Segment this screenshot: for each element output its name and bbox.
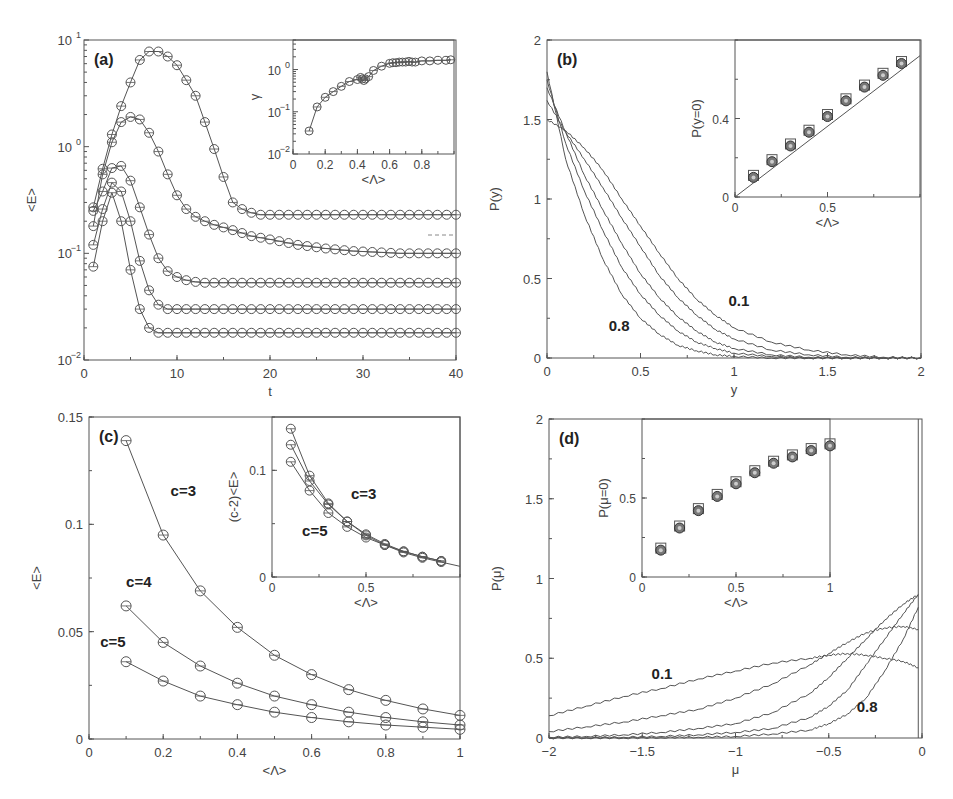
svg-text:−1: −1 xyxy=(71,243,81,253)
inset-d: 00.5100.5<Λ>P(μ=0) xyxy=(596,419,835,610)
data-curve xyxy=(291,445,441,561)
y-tick-label: 0.5 xyxy=(619,492,636,506)
data-curve xyxy=(549,595,918,739)
y-tick-label: 0 xyxy=(259,571,266,585)
data-curve xyxy=(547,72,921,359)
figure: 01020304010−210−1100101t<E>(a)00.20.40.6… xyxy=(0,0,953,799)
y-axis-label: P(y) xyxy=(487,187,502,211)
curve-annotation: c=5 xyxy=(100,633,125,650)
x-tick-label: −1 xyxy=(728,744,743,759)
svg-text:−2: −2 xyxy=(280,144,290,154)
y-axis-label: <E> xyxy=(29,566,44,590)
y-tick-label: 0 xyxy=(534,351,541,366)
y-tick-label: 0.15 xyxy=(58,410,83,425)
axes-frame xyxy=(549,419,922,738)
inset-a: 00.20.40.60.810−210−1100<Λ>γ xyxy=(247,40,455,187)
y-axis-label: (c-2)<E> xyxy=(226,472,241,523)
x-tick-label: 10 xyxy=(170,366,184,381)
x-tick-label: 40 xyxy=(449,366,463,381)
x-axis-label: t xyxy=(268,384,272,399)
y-tick-label: 2 xyxy=(536,412,543,427)
y-tick-label: 10 xyxy=(58,140,72,155)
panel-label: (c) xyxy=(99,428,119,445)
x-axis-label: <Λ> xyxy=(263,763,287,778)
y-tick-label: 0.4 xyxy=(712,113,729,127)
y-axis-label: P(μ) xyxy=(489,566,504,591)
x-tick-label: 0 xyxy=(918,744,925,759)
curve-annotation: 0.1 xyxy=(652,665,673,682)
x-axis-label: <Λ> xyxy=(354,595,378,610)
data-curve xyxy=(547,80,921,359)
y-tick-label: 0.1 xyxy=(65,517,83,532)
data-curve xyxy=(93,166,456,283)
data-curve xyxy=(547,88,921,359)
curve-annotation: 0.8 xyxy=(609,317,630,334)
x-tick-label: 0 xyxy=(85,745,92,760)
data-curve xyxy=(309,60,451,131)
curve-annotation: c=4 xyxy=(126,573,152,590)
data-curve xyxy=(549,626,918,732)
x-tick-label: 0 xyxy=(543,364,550,379)
panel-a: 01020304010−210−1100101t<E>(a)00.20.40.6… xyxy=(24,30,463,399)
curve-annotation: c=5 xyxy=(302,522,327,539)
y-tick-label: 1 xyxy=(536,572,543,587)
data-curve xyxy=(291,462,441,561)
x-tick-label: 0.4 xyxy=(349,158,366,172)
y-tick-label: 10 xyxy=(58,33,72,48)
x-tick-label: 0 xyxy=(290,158,297,172)
x-tick-label: 0.6 xyxy=(381,158,398,172)
x-axis-label: <Λ> xyxy=(362,172,386,187)
x-tick-label: 0.5 xyxy=(728,581,745,595)
inset-c: 00.500.1<Λ>(c-2)<E>c=3c=5 xyxy=(226,417,460,610)
inset-b: 00.500.4<Λ>P(y=0) xyxy=(689,40,920,230)
x-tick-label: 0 xyxy=(639,581,646,595)
x-axis-label: <Λ> xyxy=(724,595,748,610)
x-tick-label: 0 xyxy=(269,581,276,595)
x-axis-label: y xyxy=(731,382,738,397)
y-tick-label: 0.1 xyxy=(249,464,266,478)
x-tick-label: 1 xyxy=(827,581,834,595)
x-tick-label: 0.2 xyxy=(317,158,334,172)
y-tick-label: 1.5 xyxy=(523,113,541,128)
x-axis-label: <Λ> xyxy=(816,215,840,230)
curve-annotation: c=3 xyxy=(171,482,196,499)
data-curve xyxy=(549,607,918,739)
y-tick-label: 0.5 xyxy=(523,272,541,287)
panel-label: (a) xyxy=(94,51,114,68)
x-tick-label: 1.5 xyxy=(818,364,836,379)
x-tick-label: −0.5 xyxy=(816,744,842,759)
data-curve xyxy=(549,595,918,738)
x-tick-label: 30 xyxy=(356,366,370,381)
y-tick-label: 0 xyxy=(722,191,729,205)
y-tick-label: 10 xyxy=(268,64,282,78)
axes-frame xyxy=(84,40,456,360)
data-curve xyxy=(547,120,921,359)
y-tick-label: 0.05 xyxy=(58,625,83,640)
x-tick-label: 1 xyxy=(456,745,463,760)
y-tick-label: 0.5 xyxy=(525,651,543,666)
x-tick-label: −1.5 xyxy=(629,744,655,759)
y-axis-label: <E> xyxy=(24,188,39,212)
x-axis-label: μ xyxy=(732,762,740,777)
inset-frame xyxy=(642,419,830,577)
x-tick-label: 0.5 xyxy=(631,364,649,379)
x-tick-label: 0.6 xyxy=(303,745,321,760)
y-axis-label: P(μ=0) xyxy=(596,478,611,518)
x-tick-label: −2 xyxy=(542,744,557,759)
y-axis-label: γ xyxy=(247,93,262,100)
x-tick-label: 0 xyxy=(80,366,87,381)
svg-text:1: 1 xyxy=(76,30,81,40)
panel-d: −2−1.5−1−0.5000.511.52μP(μ)(d)0.10.800.5… xyxy=(489,412,926,777)
x-tick-label: 0.5 xyxy=(358,581,375,595)
svg-text:0: 0 xyxy=(76,137,81,147)
y-axis-label: P(y=0) xyxy=(689,99,704,138)
curve-annotation: 0.8 xyxy=(857,698,878,715)
x-tick-label: 0.2 xyxy=(154,745,172,760)
x-tick-label: 20 xyxy=(263,366,277,381)
y-tick-label: 0 xyxy=(629,571,636,585)
panel-label: (d) xyxy=(559,430,579,447)
x-tick-label: 1 xyxy=(730,364,737,379)
panel-b: 00.511.5200.511.52yP(y)(b)0.10.800.500.4… xyxy=(487,33,925,397)
svg-text:0: 0 xyxy=(285,60,290,70)
panel-c: 00.20.40.60.8100.050.10.15<Λ><E>(c)c=3c=… xyxy=(29,410,465,778)
